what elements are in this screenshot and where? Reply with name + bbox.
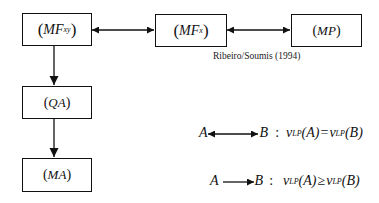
legend-inequality: A B : vLP(A) ≥ vLP(B): [210, 173, 360, 189]
legend-right-label: B: [260, 125, 269, 141]
node-ma: (MA): [22, 158, 92, 192]
citation: Ribeiro/Soumis (1994): [213, 51, 300, 61]
node-mp: (MP): [291, 14, 362, 47]
legend-equality: A B : vLP(A) = vLP(B): [199, 125, 363, 141]
legend-right-label: B: [255, 173, 264, 189]
legend-left-label: A: [199, 125, 208, 141]
node-qa: (QA): [22, 86, 92, 119]
node-mfx: (MFx): [155, 14, 227, 47]
legend-left-label: A: [210, 173, 219, 189]
node-mfxy: (MFxy): [22, 13, 92, 46]
